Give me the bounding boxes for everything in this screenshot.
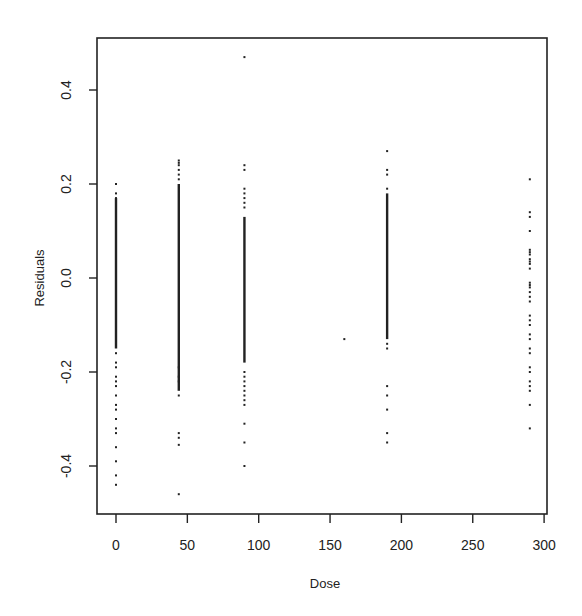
data-point — [529, 261, 531, 263]
data-point — [178, 437, 180, 439]
data-point — [243, 423, 245, 425]
data-point — [529, 284, 531, 286]
data-point — [529, 385, 531, 387]
data-point — [115, 183, 117, 185]
data-point — [115, 484, 117, 486]
data-point — [529, 251, 531, 253]
dense-point-cluster — [386, 193, 388, 339]
data-point — [243, 56, 245, 58]
x-axis-ticks: 050100150200250300 — [112, 514, 556, 553]
x-tick-label: 250 — [461, 537, 485, 553]
plot-frame — [97, 38, 547, 514]
dense-point-cluster — [115, 198, 117, 348]
data-point — [115, 409, 117, 411]
data-point — [178, 366, 180, 368]
data-point — [529, 404, 531, 406]
data-point — [386, 169, 388, 171]
data-point — [529, 268, 531, 270]
data-point — [386, 409, 388, 411]
data-point — [115, 395, 117, 397]
data-point — [243, 197, 245, 199]
data-point — [529, 338, 531, 340]
data-point — [529, 258, 531, 260]
data-point — [243, 188, 245, 190]
x-tick-label: 200 — [390, 537, 414, 553]
data-point — [178, 432, 180, 434]
data-point — [386, 343, 388, 345]
data-point — [386, 188, 388, 190]
y-tick-label: 0.4 — [58, 80, 74, 100]
data-point — [529, 315, 531, 317]
data-point — [386, 385, 388, 387]
y-tick-label: 0.0 — [58, 268, 74, 288]
data-point — [386, 432, 388, 434]
dense-point-cluster — [178, 184, 180, 391]
data-point — [529, 286, 531, 288]
data-point — [178, 376, 180, 378]
data-point — [243, 442, 245, 444]
data-point — [386, 150, 388, 152]
data-point — [529, 291, 531, 293]
x-axis-title: Dose — [310, 576, 340, 591]
data-point — [386, 348, 388, 350]
data-point — [115, 427, 117, 429]
data-point — [178, 395, 180, 397]
data-point — [115, 376, 117, 378]
data-point — [178, 162, 180, 164]
residuals-vs-dose-scatter-plot: 050100150200250300 -0.4-0.20.00.20.4 Dos… — [0, 0, 582, 616]
data-point — [178, 178, 180, 180]
data-point — [243, 395, 245, 397]
data-point — [529, 230, 531, 232]
data-point — [529, 263, 531, 265]
data-point — [386, 442, 388, 444]
data-point — [243, 164, 245, 166]
data-point — [529, 211, 531, 213]
y-tick-label: -0.2 — [58, 360, 74, 384]
data-point — [529, 352, 531, 354]
x-tick-label: 0 — [112, 537, 120, 553]
data-point — [529, 390, 531, 392]
x-tick-label: 300 — [532, 537, 556, 553]
data-point — [529, 348, 531, 350]
data-point — [178, 380, 180, 382]
data-point — [115, 385, 117, 387]
data-point — [529, 301, 531, 303]
data-point — [243, 385, 245, 387]
data-point — [529, 319, 531, 321]
data-point — [243, 192, 245, 194]
data-point — [529, 427, 531, 429]
data-point — [529, 380, 531, 382]
data-point — [343, 338, 345, 340]
data-point — [243, 371, 245, 373]
data-point — [243, 202, 245, 204]
data-point — [115, 432, 117, 434]
data-point — [115, 192, 117, 194]
x-tick-label: 50 — [180, 537, 196, 553]
data-point — [115, 446, 117, 448]
y-axis-ticks: -0.4-0.20.00.20.4 — [58, 80, 97, 478]
x-tick-label: 100 — [247, 537, 271, 553]
data-point — [529, 216, 531, 218]
data-point — [529, 254, 531, 256]
data-point — [115, 380, 117, 382]
data-point — [243, 399, 245, 401]
data-point — [115, 404, 117, 406]
data-point — [178, 169, 180, 171]
data-point — [178, 164, 180, 166]
data-point — [115, 362, 117, 364]
data-point — [243, 207, 245, 209]
dense-point-cluster — [243, 217, 245, 363]
data-point — [386, 174, 388, 176]
data-point — [115, 197, 117, 199]
data-point — [115, 474, 117, 476]
data-point — [178, 160, 180, 162]
data-point — [115, 460, 117, 462]
data-point — [243, 376, 245, 378]
data-point — [386, 395, 388, 397]
data-point — [115, 418, 117, 420]
data-point — [115, 352, 117, 354]
data-point — [529, 178, 531, 180]
y-tick-label: 0.2 — [58, 174, 74, 194]
data-point — [529, 371, 531, 373]
data-point — [529, 324, 531, 326]
